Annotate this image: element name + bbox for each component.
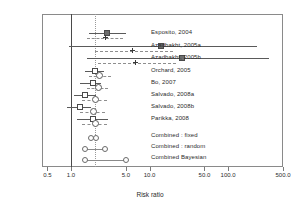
x-axis-tick-label: 50.0 (199, 172, 211, 178)
point-estimate-square (82, 92, 88, 98)
x-axis-tick-label: 0.5 (43, 172, 51, 178)
combined-ci-line (85, 160, 126, 161)
point-estimate-square (77, 104, 83, 110)
x-axis-tick-label: 500.0 (275, 172, 290, 178)
ci-upper-marker (93, 135, 99, 141)
ci-upper-marker (123, 157, 129, 163)
x-axis-tick-label: 5.0 (122, 172, 130, 178)
bayesian-point-estimate (92, 120, 99, 127)
x-axis-tick (204, 167, 205, 171)
combined-row (0, 153, 300, 167)
ci-lower-marker (82, 146, 88, 152)
x-axis-tick-label: 100.0 (221, 172, 236, 178)
study-row (0, 53, 300, 67)
combined-label: Combined Bayesian (151, 154, 206, 160)
combined-label: Combined : fixed (151, 132, 198, 138)
study-row (0, 114, 300, 128)
study-label: Azadbakht, 2005a (151, 42, 201, 48)
study-label: Parikka, 2008 (151, 115, 189, 121)
forest-plot: Esposito, 2004Azadbakht, 2005aAzadbakht,… (0, 0, 300, 211)
x-axis-tick (283, 167, 284, 171)
study-label: Bo, 2007 (151, 79, 176, 85)
x-axis-tick (47, 167, 48, 171)
study-label: Orchard, 2005 (151, 67, 191, 73)
x-axis-title: Risk ratio (0, 191, 300, 198)
x-axis-tick (126, 167, 127, 171)
x-axis-tick-label: 10.0 (144, 172, 156, 178)
ci-lower-marker (82, 157, 88, 163)
study-label: Salvado, 2008a (151, 91, 194, 97)
study-label: Esposito, 2004 (151, 29, 192, 35)
bayesian-point-estimate (103, 35, 108, 40)
x-axis-tick (150, 167, 151, 171)
x-axis-tick (228, 167, 229, 171)
study-row (0, 28, 300, 42)
ci-upper-marker (102, 146, 108, 152)
bayesian-point-estimate (133, 60, 138, 65)
study-label: Salvado, 2008b (151, 103, 194, 109)
combined-label: Combined : random (151, 143, 205, 149)
x-axis-tick (71, 167, 72, 171)
x-axis-tick-label: 1.0 (67, 172, 75, 178)
study-label: Azadbakht, 2005b (151, 54, 201, 60)
